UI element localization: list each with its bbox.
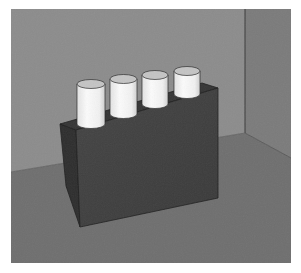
render-grain xyxy=(11,9,291,263)
render-viewport xyxy=(0,0,301,273)
